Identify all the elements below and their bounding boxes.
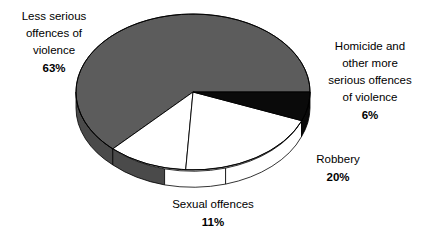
pie-chart: Less serious offences of violence 63% Ho… xyxy=(0,0,426,239)
label-percent: 6% xyxy=(316,106,424,125)
label-percent: 11% xyxy=(138,213,288,232)
slice-side-sexual-offences xyxy=(165,168,226,187)
label-line: Sexual offences xyxy=(138,196,288,213)
label-line: serious offences xyxy=(316,72,424,89)
label-line: Less serious xyxy=(2,8,106,25)
label-line: Homicide and xyxy=(316,38,424,55)
label-sexual-offences: Sexual offences 11% xyxy=(138,196,288,232)
label-less-serious-offences-of-violence: Less serious offences of violence 63% xyxy=(2,8,106,78)
label-line: Robbery xyxy=(290,151,386,168)
label-percent: 20% xyxy=(290,168,386,187)
label-robbery: Robbery 20% xyxy=(290,151,386,187)
label-homicide-and-other-more-serious-offences: Homicide and other more serious offences… xyxy=(316,38,424,125)
label-line: of violence xyxy=(316,89,424,106)
label-line: violence xyxy=(2,42,106,59)
label-line: offences of xyxy=(2,25,106,42)
label-percent: 63% xyxy=(2,59,106,78)
label-line: other more xyxy=(316,55,424,72)
